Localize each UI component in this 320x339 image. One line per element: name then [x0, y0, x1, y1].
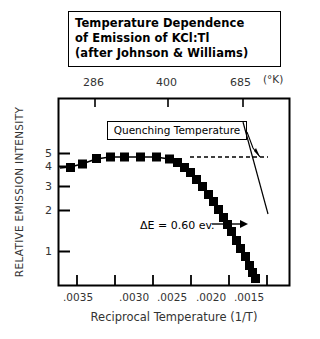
data-point — [78, 160, 87, 169]
x-axis-ticks — [77, 275, 267, 285]
data-point — [92, 154, 101, 163]
quenching-callout-arrowhead — [254, 148, 260, 157]
data-point — [209, 197, 218, 206]
data-point — [232, 236, 241, 245]
data-point — [251, 274, 260, 283]
data-point — [241, 252, 250, 261]
data-point — [136, 153, 145, 162]
data-point — [120, 153, 129, 162]
data-point — [66, 163, 75, 172]
data-point — [152, 153, 161, 162]
data-point — [214, 205, 223, 214]
plot-graphics — [0, 0, 320, 339]
data-point — [106, 153, 115, 162]
figure-canvas: Temperature Dependence of Emission of KC… — [0, 0, 320, 339]
activation-energy-arrowhead — [240, 220, 248, 228]
data-point — [236, 244, 245, 253]
plot-frame — [59, 99, 290, 286]
data-point — [198, 182, 207, 191]
data-point-markers — [66, 153, 260, 284]
data-point — [165, 155, 174, 164]
slope-tangent-line — [243, 122, 268, 214]
data-point — [227, 227, 236, 236]
